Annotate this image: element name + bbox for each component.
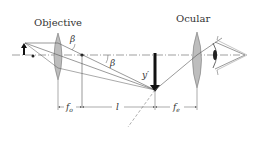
label-image-y-prime: y′: [141, 70, 149, 80]
ray-through-center: [25, 43, 155, 90]
microscope-diagram: Objective Ocular β β y′ fo l fe: [0, 0, 255, 143]
label-beta-top: β: [69, 34, 75, 44]
label-objective: Objective: [34, 17, 82, 28]
objective-lens: [54, 33, 62, 80]
ray-focal-2: [58, 68, 155, 90]
front-focal-point: [32, 55, 35, 58]
beta-angle-mid-arc: [106, 55, 108, 63]
dashed-extension: [128, 90, 155, 127]
label-fe: fe: [172, 102, 180, 113]
ray-to-ocular: [155, 55, 197, 90]
label-fo: fo: [65, 102, 73, 113]
label-l: l: [116, 102, 119, 112]
label-ocular: Ocular: [176, 13, 210, 24]
ray-parallel-refracted: [58, 43, 155, 90]
label-beta-mid: β: [109, 58, 115, 68]
eye-icon: [213, 36, 247, 75]
ray-focal: [25, 43, 58, 68]
ocular-lens: [193, 32, 202, 88]
beta-angle-top-arc: [72, 44, 75, 50]
